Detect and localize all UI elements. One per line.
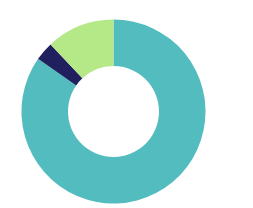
donut-slices — [22, 20, 206, 204]
donut-chart-svg — [0, 0, 253, 208]
donut-chart — [0, 0, 253, 208]
